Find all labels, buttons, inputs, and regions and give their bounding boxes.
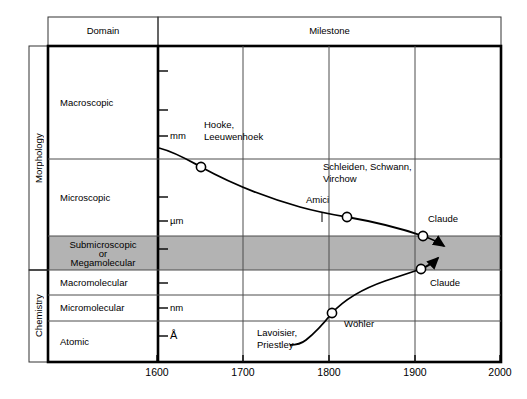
- plot-frame: [48, 46, 501, 362]
- y-axis-ticks: [159, 71, 168, 336]
- annotation-hooke-line2: Leeuwenhoek: [204, 131, 263, 142]
- marker-schleiden: [342, 212, 351, 221]
- xtick-1900: 1900: [390, 366, 440, 378]
- marker-wohler: [327, 308, 336, 317]
- marker-hooke: [196, 162, 205, 171]
- xtick-1600: 1600: [132, 366, 182, 378]
- chemistry-curve: [290, 258, 438, 345]
- row-label-submicroscopic-line3: Megamolecular: [48, 257, 158, 268]
- marker-claude-top: [418, 231, 427, 240]
- row-label-atomic: Atomic: [60, 336, 89, 347]
- row-label-micromolecular: Micromolecular: [60, 302, 124, 313]
- annotation-schleiden-line1: Schleiden, Schwann,: [323, 161, 412, 172]
- domain-header-label: Domain: [48, 25, 158, 36]
- annotation-claude-top: Claude: [428, 213, 458, 224]
- xtick-1800: 1800: [304, 366, 354, 378]
- unit-label-mm: mm: [170, 130, 186, 141]
- xtick-1700: 1700: [218, 366, 268, 378]
- annotation-wohler: Wöhler: [344, 318, 374, 329]
- annotation-lavoisier-line1: Lavoisier,: [257, 327, 297, 338]
- figure-container: Domain Milestone Morphology Chemistry Ma…: [0, 0, 527, 399]
- row-label-microscopic: Microscopic: [60, 192, 110, 203]
- row-label-macromolecular: Macromolecular: [60, 277, 128, 288]
- xtick-2000: 2000: [475, 366, 525, 378]
- unit-label-micrometer: µm: [170, 215, 183, 226]
- group-label-chemistry: Chemistry: [29, 270, 48, 362]
- annotation-amici: Amici: [306, 194, 329, 205]
- row-label-macroscopic: Macroscopic: [60, 97, 113, 108]
- annotation-schleiden-line2: Virchow: [323, 173, 357, 184]
- group-label-morphology: Morphology: [29, 46, 48, 270]
- annotation-claude-bottom: Claude: [430, 277, 460, 288]
- annotation-hooke-line1: Hooke,: [204, 119, 234, 130]
- annotation-lavoisier-line2: Priestley: [257, 339, 293, 350]
- unit-label-angstrom: Å: [170, 329, 177, 341]
- marker-claude-bottom: [416, 264, 425, 273]
- unit-label-nm: nm: [170, 302, 183, 313]
- milestone-header-label: Milestone: [158, 25, 501, 36]
